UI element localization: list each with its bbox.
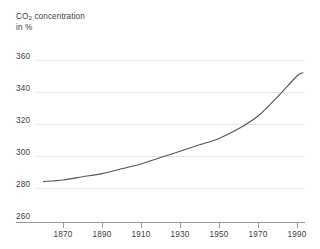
- x-tick-1890: [102, 223, 103, 228]
- x-axis-line: [16, 222, 305, 223]
- x-tick-1990: [297, 223, 298, 228]
- chart-title: CO2 concentration in %: [16, 11, 85, 33]
- chart-title-suffix: concentration: [32, 12, 85, 21]
- x-tick-1930: [180, 223, 181, 228]
- x-tick-1910: [141, 223, 142, 228]
- x-tick-1870: [63, 223, 64, 228]
- series-line-co2-concentration: [44, 73, 303, 182]
- co2-curve: [37, 60, 305, 222]
- x-tick-label-1930: 1930: [170, 230, 189, 239]
- chart-subtitle: in %: [16, 22, 85, 33]
- x-tick-label-1990: 1990: [287, 230, 306, 239]
- x-tick-label-1950: 1950: [209, 230, 228, 239]
- x-tick-1950: [219, 223, 220, 228]
- chart-figure: CO2 concentration in % 360 340 320 300 2…: [0, 0, 320, 249]
- chart-title-text: CO2 concentration: [16, 12, 85, 21]
- x-tick-1970: [258, 223, 259, 228]
- x-tick-label-1870: 1870: [53, 230, 72, 239]
- plot-area: [37, 60, 305, 222]
- chart-title-prefix: CO: [16, 12, 28, 21]
- x-tick-label-1910: 1910: [131, 230, 150, 239]
- x-tick-label-1890: 1890: [92, 230, 111, 239]
- x-tick-label-1970: 1970: [248, 230, 267, 239]
